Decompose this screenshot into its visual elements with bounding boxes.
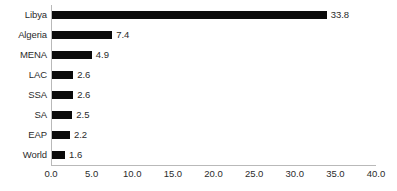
x-tick-label: 35.0 [315, 168, 355, 179]
x-tick-label: 10.0 [112, 168, 152, 179]
bar-value-label: 2.5 [76, 105, 89, 125]
x-tick-label: 5.0 [72, 168, 112, 179]
bar-value-label: 4.9 [96, 45, 109, 65]
bar-row: MENA4.9 [0, 45, 397, 65]
bar-row: Libya33.8 [0, 5, 397, 25]
bar-row: SSA2.6 [0, 85, 397, 105]
bar-row: EAP2.2 [0, 125, 397, 145]
bar-value-label: 2.6 [77, 65, 90, 85]
category-label: Algeria [0, 25, 47, 45]
bar [52, 151, 65, 159]
bar-row: LAC2.6 [0, 65, 397, 85]
x-tick-label: 30.0 [275, 168, 315, 179]
bar-value-label: 2.6 [77, 85, 90, 105]
category-label: MENA [0, 45, 47, 65]
category-label: EAP [0, 125, 47, 145]
bar [52, 71, 73, 79]
category-label: LAC [0, 65, 47, 85]
bar-chart: Libya33.8Algeria7.4MENA4.9LAC2.6SSA2.6SA… [0, 0, 397, 191]
x-tick-label: 40.0 [356, 168, 396, 179]
bar-value-label: 2.2 [74, 125, 87, 145]
bar-value-label: 33.8 [331, 5, 350, 25]
bar [52, 11, 327, 19]
category-label: SSA [0, 85, 47, 105]
bar-row: World1.6 [0, 145, 397, 165]
bar [52, 51, 92, 59]
plot-area: Libya33.8Algeria7.4MENA4.9LAC2.6SSA2.6SA… [0, 0, 397, 191]
bar-row: Algeria7.4 [0, 25, 397, 45]
category-label: World [0, 145, 47, 165]
bar [52, 131, 70, 139]
x-axis-line [51, 165, 376, 166]
category-label: Libya [0, 5, 47, 25]
x-tick-label: 0.0 [31, 168, 71, 179]
bar-value-label: 7.4 [116, 25, 129, 45]
bar-value-label: 1.6 [69, 145, 82, 165]
bar-row: SA2.5 [0, 105, 397, 125]
x-tick-label: 20.0 [194, 168, 234, 179]
x-tick-label: 25.0 [234, 168, 274, 179]
x-tick-label: 15.0 [153, 168, 193, 179]
bar [52, 111, 72, 119]
bar [52, 91, 73, 99]
category-label: SA [0, 105, 47, 125]
bar [52, 31, 112, 39]
